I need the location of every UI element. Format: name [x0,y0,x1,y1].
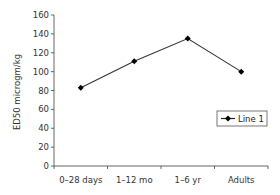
x-tick-label: 1–12 mo [116,175,153,185]
y-tick-label: 120 [33,48,49,58]
x-tick-label: 1–6 yr [175,175,202,185]
x-axis: 0–28 days1–12 mo1–6 yrAdults [54,166,268,185]
y-tick-label: 80 [38,86,49,96]
diamond-marker-icon [131,58,137,64]
y-tick-label: 100 [33,67,49,77]
y-tick-label: 20 [38,142,49,152]
x-tick-label: 0–28 days [59,175,103,185]
diamond-marker-icon [238,69,244,75]
legend-label: Line 1 [238,114,264,124]
y-axis: 020406080100120140160 [33,10,54,171]
data-series [78,36,245,91]
y-tick-label: 0 [44,161,49,171]
x-tick-label: Adults [228,175,255,185]
legend: Line 1 [217,111,267,126]
y-tick-label: 140 [33,29,49,39]
y-tick-label: 160 [33,10,49,20]
y-tick-label: 60 [38,104,49,114]
y-axis-title: ED50 microgm/kg [12,54,22,130]
series-line [81,39,242,88]
line-chart: 020406080100120140160 0–28 days1–12 mo1–… [0,0,280,195]
diamond-marker-icon [78,85,84,91]
diamond-marker-icon [185,36,191,42]
y-tick-label: 40 [38,123,49,133]
